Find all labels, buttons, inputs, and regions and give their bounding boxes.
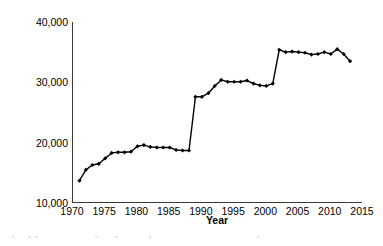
data-point-marker: [277, 48, 281, 52]
plot-area: [72, 22, 362, 203]
data-point-marker: [174, 148, 178, 152]
data-point-marker: [142, 143, 146, 147]
figure-caption-clipped: Liquid pipelines in Europe reported by C…: [0, 236, 383, 246]
data-point-marker: [251, 81, 255, 85]
series-line: [79, 49, 350, 181]
y-axis-tick-labels: 10,00020,00030,00040,000: [6, 22, 68, 203]
data-point-marker: [226, 80, 230, 84]
data-point-marker: [238, 80, 242, 84]
data-point-marker: [303, 51, 307, 55]
data-point-marker: [258, 83, 262, 87]
data-point-marker: [116, 150, 120, 154]
data-point-marker: [187, 148, 191, 152]
line-series-svg: [73, 22, 363, 203]
data-point-marker: [232, 80, 236, 84]
data-point-marker: [322, 50, 326, 54]
data-point-marker: [155, 145, 159, 149]
data-point-marker: [271, 81, 275, 85]
y-tick-label: 30,000: [8, 76, 68, 88]
data-point-marker: [316, 52, 320, 56]
data-point-marker: [296, 50, 300, 54]
data-point-marker: [245, 78, 249, 82]
figure-caption-text: Liquid pipelines in Europe reported by C…: [2, 236, 323, 238]
y-tick-label: 20,000: [8, 137, 68, 149]
data-point-marker: [148, 145, 152, 149]
x-axis-title: Year: [72, 214, 362, 226]
data-point-marker: [180, 148, 184, 152]
data-point-marker: [290, 49, 294, 53]
data-point-marker: [161, 145, 165, 149]
y-tick-label: 40,000: [8, 16, 68, 28]
data-point-marker: [309, 52, 313, 56]
data-point-marker: [193, 95, 197, 99]
series-markers: [77, 47, 352, 183]
data-point-marker: [168, 145, 172, 149]
data-point-marker: [122, 150, 126, 154]
data-point-marker: [264, 84, 268, 88]
chart-figure: Total liquid pipelines in Europe (km) 10…: [0, 0, 383, 246]
data-point-marker: [284, 50, 288, 54]
